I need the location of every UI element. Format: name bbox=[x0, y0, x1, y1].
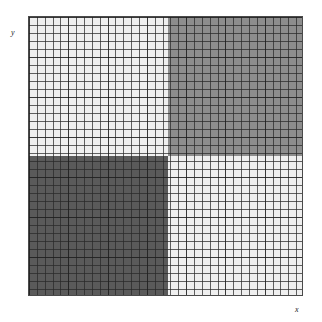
heatmap-quadrant-bottom-right bbox=[168, 156, 302, 295]
heatmap-quadrant-bottom-left bbox=[29, 156, 168, 295]
y-axis-label: y bbox=[11, 29, 15, 37]
plot-area bbox=[28, 16, 303, 296]
heatmap-quadrant-top-right bbox=[168, 17, 302, 156]
chart-figure: y x bbox=[0, 0, 322, 322]
heatmap-quadrant-top-left bbox=[29, 17, 168, 156]
heatmap-layer bbox=[29, 17, 302, 295]
x-axis-label: x bbox=[295, 306, 299, 314]
